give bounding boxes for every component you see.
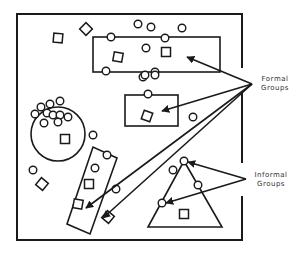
person-circle-icon xyxy=(64,113,72,121)
person-square-icon xyxy=(180,210,189,219)
person-circle-icon xyxy=(161,34,169,42)
formal-group-rect xyxy=(93,37,220,72)
informal-arrow xyxy=(188,162,246,179)
person-circle-icon xyxy=(102,67,110,75)
person-circle-icon xyxy=(29,166,37,174)
informal-label-line2: Groups xyxy=(246,180,296,189)
informal-label-line1: Informal xyxy=(246,171,296,180)
person-square-icon xyxy=(162,48,171,57)
person-circle-icon xyxy=(46,100,54,108)
person-square-icon xyxy=(73,199,83,209)
person-square-icon xyxy=(113,52,123,62)
person-circle-icon xyxy=(189,113,197,121)
person-circle-icon xyxy=(31,110,39,118)
formal-arrow xyxy=(162,84,252,111)
formal-groups-label: Formal Groups xyxy=(252,75,298,93)
organization-frame xyxy=(17,14,242,240)
person-circle-icon xyxy=(40,119,48,127)
person-circle-icon xyxy=(169,166,177,174)
person-circle-icon xyxy=(56,97,64,105)
person-circle-icon xyxy=(158,199,166,207)
person-circle-icon xyxy=(89,131,97,139)
person-circle-icon xyxy=(147,23,155,31)
formal-label-line2: Groups xyxy=(252,84,298,93)
person-circle-icon xyxy=(178,24,186,32)
person-circle-icon xyxy=(142,44,150,52)
person-square-icon xyxy=(80,23,93,36)
person-circle-icon xyxy=(91,164,99,172)
informal-groups-label: Informal Groups xyxy=(246,171,296,189)
person-square-icon xyxy=(53,33,63,43)
person-square-icon xyxy=(141,110,153,122)
person-circle-icon xyxy=(194,181,202,189)
person-circle-icon xyxy=(141,71,149,79)
person-circle-icon xyxy=(37,103,45,111)
person-circle-icon xyxy=(103,151,111,159)
formal-label-line1: Formal xyxy=(252,75,298,84)
people-circles xyxy=(29,20,202,207)
person-circle-icon xyxy=(180,157,188,165)
formal-group-rect xyxy=(125,95,178,126)
frame-border xyxy=(17,14,242,240)
group-diagram xyxy=(0,0,304,254)
person-circle-icon xyxy=(107,33,115,41)
person-circle-icon xyxy=(151,71,159,79)
person-circle-icon xyxy=(144,90,152,98)
pointer-arrows xyxy=(86,57,252,218)
person-circle-icon xyxy=(134,20,142,28)
person-square-icon xyxy=(61,135,70,144)
person-square-icon xyxy=(85,180,94,189)
person-circle-icon xyxy=(54,118,62,126)
person-square-icon xyxy=(36,178,49,191)
